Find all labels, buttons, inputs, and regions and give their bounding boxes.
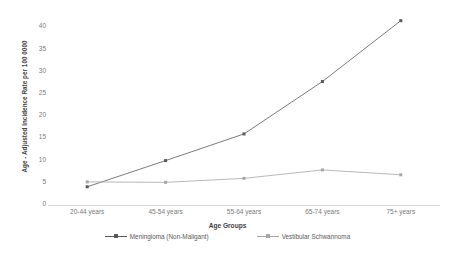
y-axis-tick-label: 10 (26, 157, 46, 164)
legend-item[interactable]: Vestibular Schwannoma (257, 233, 351, 240)
legend-label: Vestibular Schwannoma (282, 233, 351, 240)
x-axis-tick-label: 45-54 years (121, 208, 211, 215)
data-point-marker (399, 19, 402, 22)
y-axis-tick-label: 30 (26, 68, 46, 75)
series-line (87, 170, 401, 182)
plot-area (48, 14, 440, 205)
x-axis-tick-labels: 20-44 years45-54 years55-64 years65-74 y… (48, 208, 440, 222)
y-axis-tick-label: 35 (26, 46, 46, 53)
series-container (48, 14, 440, 205)
y-axis-tick-label: 25 (26, 90, 46, 97)
y-axis-tick-label: 5 (26, 179, 46, 186)
legend-item[interactable]: Meningioma (Non-Maligant) (105, 233, 209, 240)
legend-marker-icon (257, 233, 279, 240)
x-axis-tick-label: 20-44 years (42, 208, 132, 215)
line-chart: Age - Adjusted Incidence Rate per 100 00… (0, 0, 455, 254)
x-axis-tick-label: 65-74 years (277, 208, 367, 215)
series-line (87, 21, 401, 187)
y-axis-tick-label: 20 (26, 112, 46, 119)
legend-marker-icon (105, 233, 127, 240)
y-axis-tick-labels: 0510152025303540 (26, 0, 46, 254)
data-point-marker (86, 185, 89, 188)
series-1 (86, 19, 403, 188)
x-axis-tick-label: 75+ years (356, 208, 446, 215)
y-axis-tick-label: 0 (26, 201, 46, 208)
data-point-marker (243, 132, 246, 135)
data-point-marker (321, 80, 324, 83)
y-axis-tick-label: 15 (26, 134, 46, 141)
chart-legend: Meningioma (Non-Maligant)Vestibular Schw… (0, 233, 455, 240)
data-point-marker (164, 159, 167, 162)
y-axis-tick-label: 40 (26, 23, 46, 30)
legend-label: Meningioma (Non-Maligant) (130, 233, 209, 240)
data-point-marker (399, 173, 402, 176)
data-point-marker (321, 168, 324, 171)
data-point-marker (243, 177, 246, 180)
data-point-marker (86, 180, 89, 183)
data-point-marker (164, 181, 167, 184)
x-axis-title: Age Groups (0, 222, 455, 229)
series-2 (86, 168, 403, 183)
x-axis-tick-label: 55-64 years (199, 208, 289, 215)
